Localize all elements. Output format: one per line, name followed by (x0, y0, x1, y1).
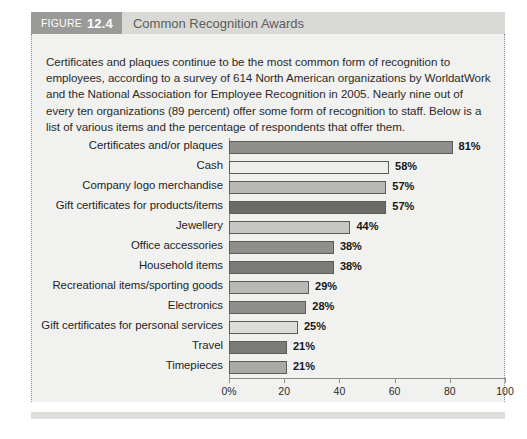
bar-rows: Certificates and/or plaques81%Cash58%Com… (32, 138, 506, 378)
bar-value-label: 58% (395, 160, 417, 172)
bar-value-label: 38% (340, 260, 362, 272)
bar-row: Cash58% (32, 158, 506, 178)
bar-value-label: 44% (356, 220, 378, 232)
bar-category-label: Jewellery (176, 219, 223, 231)
figure-header: FIGURE 12.4 Common Recognition Awards (31, 12, 505, 34)
x-axis-tick-label: 40 (334, 385, 346, 397)
bar (229, 341, 287, 354)
figure-container: FIGURE 12.4 Common Recognition Awards Ce… (0, 0, 527, 439)
x-axis-tick (284, 378, 285, 383)
bar-row: Gift certificates for personal services2… (32, 318, 506, 338)
x-axis-tick-label: 80 (444, 385, 456, 397)
bar-row: Timepieces21% (32, 358, 506, 378)
bar-category-label: Gift certificates for personal services (41, 319, 223, 331)
figure-footer-bar (31, 412, 505, 419)
x-axis-tick-label: 60 (389, 385, 401, 397)
figure-badge-word: FIGURE (41, 17, 82, 29)
bar-chart: Certificates and/or plaques81%Cash58%Com… (32, 138, 506, 402)
bar-category-label: Travel (192, 339, 223, 351)
bar-category-label: Household items (139, 259, 223, 271)
bar (229, 161, 389, 174)
x-axis-tick (450, 378, 451, 383)
figure-panel: Certificates and plaques continue to be … (31, 34, 505, 402)
bar-row: Household items38% (32, 258, 506, 278)
bar-value-label: 38% (340, 240, 362, 252)
bar-row: Certificates and/or plaques81% (32, 138, 506, 158)
bar-row: Gift certificates for products/items57% (32, 198, 506, 218)
figure-badge: FIGURE 12.4 (31, 12, 122, 34)
bar-category-label: Timepieces (166, 359, 223, 371)
x-axis-tick-label: 0% (221, 385, 236, 397)
bar-category-label: Cash (197, 159, 223, 171)
bar (229, 181, 386, 194)
bar-category-label: Gift certificates for products/items (56, 199, 223, 211)
x-axis-tick-label: 100 (496, 385, 514, 397)
x-axis-tick (395, 378, 396, 383)
bar (229, 321, 298, 334)
bar-value-label: 21% (293, 360, 315, 372)
figure-intro-text: Certificates and plaques continue to be … (46, 54, 494, 136)
bar (229, 261, 334, 274)
bar (229, 281, 309, 294)
bar-value-label: 21% (293, 340, 315, 352)
x-axis-line (229, 378, 505, 379)
bar-value-label: 29% (315, 280, 337, 292)
figure-badge-number: 12.4 (87, 16, 113, 31)
bar (229, 241, 334, 254)
bar-category-label: Certificates and/or plaques (89, 139, 223, 151)
bar-category-label: Electronics (168, 299, 223, 311)
bar-value-label: 81% (459, 140, 481, 152)
bar-value-label: 25% (304, 320, 326, 332)
bar (229, 141, 453, 154)
bar (229, 221, 350, 234)
bar (229, 301, 306, 314)
bar-value-label: 57% (392, 180, 414, 192)
x-axis-tick (229, 378, 230, 383)
bar-row: Travel21% (32, 338, 506, 358)
bar-value-label: 57% (392, 200, 414, 212)
bar-row: Company logo merchandise57% (32, 178, 506, 198)
x-axis-tick (339, 378, 340, 383)
bar (229, 201, 386, 214)
x-axis-tick-label: 20 (278, 385, 290, 397)
bar (229, 361, 287, 374)
bar-category-label: Recreational items/sporting goods (52, 279, 223, 291)
bar-row: Office accessories38% (32, 238, 506, 258)
x-axis-tick (505, 378, 506, 383)
bar-row: Electronics28% (32, 298, 506, 318)
bar-category-label: Company logo merchandise (82, 179, 223, 191)
bar-category-label: Office accessories (131, 239, 223, 251)
figure-title: Common Recognition Awards (122, 12, 304, 34)
bar-row: Jewellery44% (32, 218, 506, 238)
bar-row: Recreational items/sporting goods29% (32, 278, 506, 298)
bar-value-label: 28% (312, 300, 334, 312)
